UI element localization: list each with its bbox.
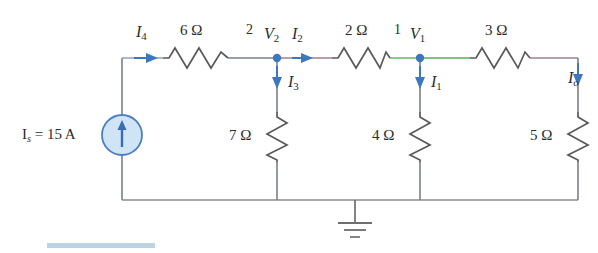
node-dot-v1 (416, 54, 424, 62)
resistor-6ohm-symbol (163, 48, 228, 68)
source-equals: = (35, 126, 43, 142)
accent-bar (47, 243, 155, 248)
source-value: 15 A (47, 126, 76, 142)
resistor-3ohm-label: 3 Ω (485, 23, 507, 38)
node-number-1: 1 (394, 23, 401, 37)
resistor-7ohm-symbol (267, 112, 287, 162)
current-label-i4: I4 (136, 24, 147, 42)
current-i1-subscript: 1 (436, 80, 441, 92)
resistor-4ohm-label: 4 Ω (372, 128, 394, 143)
resistor-3ohm-symbol (470, 48, 530, 68)
current-label-i3: I3 (288, 74, 299, 92)
resistor-6ohm-label: 6 Ω (180, 23, 202, 38)
node-voltage-v1-subscript: 1 (420, 32, 425, 44)
source-label: Is = 15 A (22, 127, 76, 144)
node-voltage-v2: V2 (264, 26, 279, 44)
source-subscript: s (27, 133, 31, 144)
node-dot-v2 (273, 54, 281, 62)
current-io-subscript: o (573, 76, 578, 88)
node-voltage-v1: V1 (410, 26, 425, 44)
current-i2-subscript: 2 (297, 32, 302, 44)
resistor-4ohm-symbol (410, 112, 430, 162)
node-number-2: 2 (246, 23, 253, 37)
resistor-5ohm-symbol (568, 112, 588, 162)
current-source-symbol (102, 115, 142, 155)
current-i4-subscript: 4 (141, 30, 146, 42)
resistor-2ohm-label: 2 Ω (345, 23, 367, 38)
resistor-5ohm-label: 5 Ω (530, 128, 552, 143)
ground-symbol (338, 200, 372, 237)
current-label-i1: I1 (431, 74, 442, 92)
node-voltage-v2-subscript: 2 (274, 32, 279, 44)
current-i3-subscript: 3 (293, 80, 298, 92)
node-voltage-v2-symbol: V (264, 25, 274, 42)
node-voltage-v1-symbol: V (410, 25, 420, 42)
current-arrow-i4 (134, 53, 158, 63)
current-arrow-i1 (415, 66, 425, 89)
current-label-i2: I2 (292, 26, 303, 44)
current-arrow-i2 (292, 53, 313, 63)
current-arrow-i3 (272, 66, 282, 89)
resistor-2ohm-symbol (332, 48, 390, 68)
resistor-7ohm-label: 7 Ω (229, 128, 251, 143)
current-label-io: Io (568, 70, 579, 88)
